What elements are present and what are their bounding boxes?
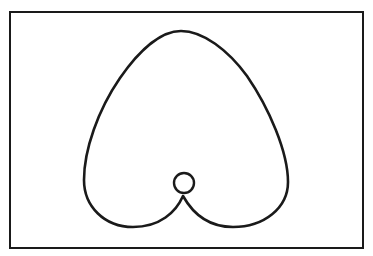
inner-loop [174,173,194,193]
diagram-canvas [0,0,373,256]
curve-diagram [0,0,373,256]
heart-curve [84,31,288,227]
frame-border [10,12,363,248]
